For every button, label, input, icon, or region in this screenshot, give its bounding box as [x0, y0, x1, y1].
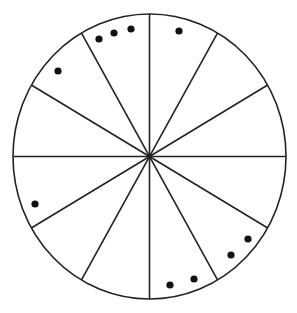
dot-marker	[166, 281, 173, 288]
dot-marker	[244, 235, 251, 242]
spokes	[14, 14, 286, 299]
dot-marker	[175, 27, 182, 34]
dot-marker	[110, 29, 117, 36]
dot-marker	[31, 200, 38, 207]
dot-marker	[95, 35, 102, 42]
dot-marker	[127, 25, 134, 32]
dot-marker	[227, 251, 234, 258]
dot-marker	[54, 67, 61, 74]
segmented-circle-diagram	[0, 0, 297, 313]
dot-marker	[190, 275, 197, 282]
